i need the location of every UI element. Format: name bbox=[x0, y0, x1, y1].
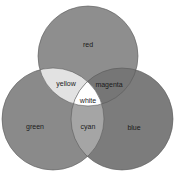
label-red: red bbox=[83, 41, 93, 48]
label-cyan: cyan bbox=[81, 123, 96, 131]
label-white: white bbox=[79, 97, 96, 104]
label-green: green bbox=[26, 123, 44, 131]
label-yellow: yellow bbox=[56, 80, 76, 88]
label-magenta: magenta bbox=[95, 81, 122, 89]
label-blue: blue bbox=[127, 124, 140, 131]
venn-diagram: red green blue yellow magenta cyan white bbox=[0, 0, 175, 174]
